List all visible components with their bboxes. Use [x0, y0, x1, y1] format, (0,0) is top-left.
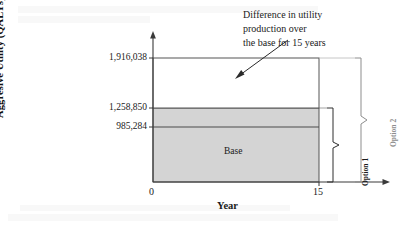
difference-annotation: Difference in utility production over th… — [243, 8, 395, 50]
y-axis-label: Aggresive Utility (QALYs) — [0, 0, 5, 118]
difference-region — [153, 58, 319, 108]
x-axis-label: Year — [217, 200, 238, 211]
base-region — [153, 108, 319, 182]
base-series-label: Base — [224, 146, 242, 156]
x-tick-label-0: 0 — [149, 186, 154, 197]
y-tick-label-1916038: 1,916,038 — [76, 52, 147, 62]
x-tick-label-15: 15 — [313, 186, 323, 197]
y-tick-label-985284: 985,284 — [76, 121, 147, 131]
option1-bracket — [327, 108, 339, 182]
y-axis-arrowhead — [150, 31, 156, 39]
annotation-line-1: Difference in utility — [243, 8, 395, 22]
option1-label: Option 1 — [361, 158, 370, 186]
annotation-line-3: the base for 15 years — [243, 36, 395, 50]
y-tick-label-1258850: 1,258,850 — [76, 102, 147, 112]
option2-label: Option 2 — [389, 119, 398, 147]
annotation-line-2: production over — [243, 22, 395, 36]
figure: Aggresive Utility (QALYs) 1,916,038 1,25… — [0, 0, 404, 227]
x-axis-arrowhead — [383, 179, 391, 185]
